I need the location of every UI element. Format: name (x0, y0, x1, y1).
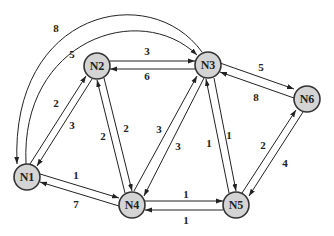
edge-n4-n3 (134, 76, 197, 191)
node-n3[interactable]: N3 (195, 52, 221, 78)
node-label: N6 (300, 92, 315, 106)
node-n2[interactable]: N2 (84, 53, 110, 79)
edge-n2-n1 (37, 79, 92, 166)
node-label: N3 (201, 58, 216, 72)
node-label: N2 (90, 59, 105, 73)
edge-label-n3-n5: 1 (226, 129, 232, 141)
network-graph: 8 5 2 3 3 6 2 2 3 3 1 1 5 8 1 7 1 1 2 4 … (0, 0, 334, 236)
edge-n5-n6 (242, 110, 296, 193)
nodes: N1 N2 N3 N4 N5 N6 (14, 52, 320, 218)
node-n4[interactable]: N4 (119, 192, 145, 218)
edge-label-n4-n5: 1 (183, 188, 189, 200)
edge-label-n1-n2: 2 (53, 97, 59, 109)
edge-label-n2-n1: 3 (69, 119, 75, 131)
edge-label-n2-n4: 2 (123, 122, 129, 134)
edge-label-n3-n2: 6 (144, 70, 150, 82)
edge-label-n3-n6: 5 (258, 61, 264, 73)
edge-label-n1-n4: 1 (73, 169, 79, 181)
edge-label-n5-n6: 2 (260, 139, 266, 151)
edge-label-n4-n2: 2 (100, 130, 106, 142)
edge-label-n3-n4: 3 (175, 140, 181, 152)
edge-label-n6-n3: 8 (253, 91, 259, 103)
node-label: N1 (20, 170, 35, 184)
edge-n3-n4 (144, 78, 204, 196)
edge-label-n2-n3: 3 (144, 45, 150, 57)
edge-label-n4-n3: 3 (156, 123, 162, 135)
edge-n1-n2 (30, 76, 86, 164)
edge-label-n3-n1: 8 (53, 22, 59, 34)
edges (17, 15, 303, 210)
node-n6[interactable]: N6 (294, 86, 320, 112)
edge-n6-n5 (249, 112, 303, 196)
node-n5[interactable]: N5 (223, 192, 249, 218)
node-n1[interactable]: N1 (14, 164, 40, 190)
node-label: N5 (229, 198, 244, 212)
node-label: N4 (125, 198, 140, 212)
edge-label-n5-n4: 1 (183, 214, 189, 226)
edge-label-n1-n3: 5 (69, 48, 75, 60)
edge-label-n6-n5: 4 (282, 157, 288, 169)
edge-n2-n4 (104, 78, 132, 191)
edge-label-n4-n1: 7 (73, 198, 79, 210)
edge-label-n5-n3: 1 (206, 137, 212, 149)
